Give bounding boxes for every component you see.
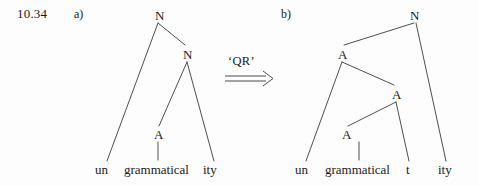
- branch-b-a-to-amid: [342, 62, 394, 85]
- tree-b-branches: [306, 23, 446, 161]
- branch-a-n-to-a: [159, 62, 187, 126]
- tree-b-node-a-top: A: [338, 48, 348, 61]
- syntax-tree-diagram: [0, 0, 478, 186]
- branch-a-root-to-un: [107, 23, 158, 161]
- tree-b-node-n-root: N: [410, 9, 420, 22]
- tree-a-leaf-ity: ity: [203, 163, 217, 176]
- tree-b-node-a-low: A: [342, 128, 352, 141]
- tree-a-leaf-grammatical: grammatical: [124, 163, 189, 176]
- branch-b-a-to-un: [306, 62, 342, 161]
- tree-b-leaf-ity: ity: [438, 163, 452, 176]
- tree-b-node-a-mid: A: [392, 88, 402, 101]
- tree-b-leaf-grammatical: grammatical: [325, 163, 390, 176]
- tree-b-leaf-t: t: [406, 163, 410, 176]
- figure-canvas: 10.34 a) b) ‘QR’ N N A un gramma: [0, 0, 478, 186]
- branch-b-amid-to-t: [396, 102, 409, 161]
- branch-b-amid-to-alow: [348, 102, 396, 126]
- tree-a-leaf-un: un: [95, 163, 108, 176]
- branch-b-root-to-ity: [416, 23, 446, 161]
- tree-a-node-n-root: N: [155, 9, 165, 22]
- branch-b-root-to-a: [344, 23, 414, 45]
- branch-a-n-to-ity: [187, 62, 214, 161]
- tree-a-node-n-inner: N: [183, 48, 193, 61]
- branch-a-root-to-n: [158, 23, 185, 45]
- tree-a-node-a: A: [154, 128, 164, 141]
- transformation-arrow-icon: [225, 71, 273, 86]
- tree-b-leaf-un: un: [295, 163, 308, 176]
